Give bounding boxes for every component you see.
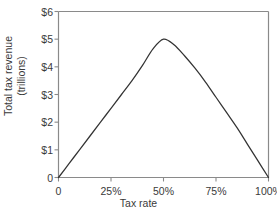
plot-area: [0, 0, 277, 216]
laffer-curve-chart: Total tax revenue (trillions) 0$1$2$3$4$…: [0, 0, 277, 216]
laffer-curve-line: [59, 39, 269, 177]
axis-frame: [59, 12, 269, 178]
axis-ticks: [55, 12, 269, 182]
